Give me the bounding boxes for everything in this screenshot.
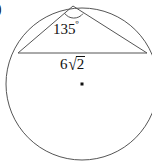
circle-outline [6, 8, 152, 160]
geometry-figure: ) 135º 6√2 [0, 0, 152, 163]
center-dot-icon [81, 83, 84, 86]
radical-sign-icon: √ [69, 56, 77, 73]
radical-expression: √2 [68, 56, 86, 72]
angle-arc-icon [65, 13, 84, 18]
inscribed-angle-label: 135º [53, 22, 79, 37]
item-marker: ) [0, 0, 2, 17]
radicand-value: 2 [76, 56, 86, 72]
angle-value: 135 [53, 21, 76, 37]
chord-coefficient: 6 [60, 56, 68, 72]
degree-symbol: º [76, 19, 79, 30]
chord-length-label: 6√2 [60, 56, 85, 72]
